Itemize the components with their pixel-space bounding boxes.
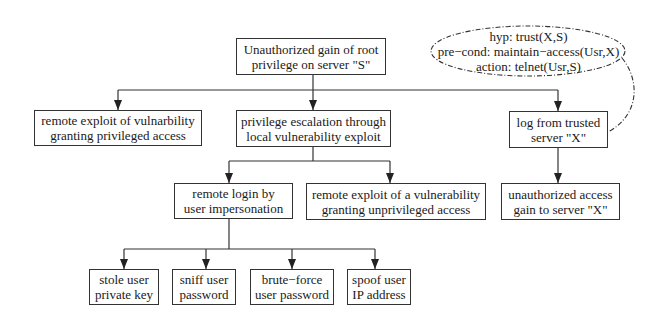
node-label: brute−force bbox=[262, 272, 323, 287]
node-label: unauthorized access bbox=[508, 187, 612, 202]
annotation-action: action: telnet(Usr,S) bbox=[476, 59, 581, 74]
arrow-icon bbox=[202, 259, 210, 269]
arrow-icon bbox=[554, 101, 562, 111]
node-brute-force: brute−force user password bbox=[250, 269, 334, 305]
node-label: privilege escalation through bbox=[241, 114, 386, 129]
arrow-icon bbox=[120, 259, 128, 269]
node-label: remote exploit of a vulnerability bbox=[312, 187, 480, 202]
annotation-precondition-text: pre−cond: maintain−access(Usr,X) bbox=[438, 44, 620, 59]
node-remote-exploit-unprivileged: remote exploit of a vulnerability granti… bbox=[306, 183, 486, 220]
node-label: granting privileged access bbox=[50, 128, 186, 143]
arrow-icon bbox=[309, 100, 317, 110]
arrow-icon bbox=[371, 259, 379, 269]
node-remote-login: remote login by user impersonation bbox=[174, 183, 293, 219]
node-label: password bbox=[179, 287, 228, 302]
arrow-icon bbox=[554, 173, 562, 183]
node-label: IP address bbox=[352, 287, 405, 302]
node-label: Unauthorized gain of root bbox=[244, 42, 379, 57]
node-label: user impersonation bbox=[184, 201, 283, 216]
node-label: server "X" bbox=[531, 130, 586, 145]
node-label: stole user bbox=[99, 272, 148, 287]
node-label: sniff user bbox=[180, 272, 229, 287]
arrow-icon bbox=[386, 173, 394, 183]
node-spoof-ip: spoof user IP address bbox=[347, 269, 411, 305]
node-sniff-password: sniff user password bbox=[172, 269, 236, 305]
node-label: private key bbox=[95, 287, 153, 302]
annotation-hypothesis: hyp: trust(X,S) bbox=[490, 29, 568, 44]
node-label: granting unprivileged access bbox=[322, 202, 471, 217]
node-label: remote exploit of vulnarbility bbox=[41, 113, 194, 128]
node-label: gain to server "X" bbox=[513, 202, 607, 217]
node-label: spoof user bbox=[352, 272, 406, 287]
node-label: privilege on server "S" bbox=[252, 57, 371, 72]
node-label: log from trusted bbox=[517, 115, 601, 130]
node-label: user password bbox=[255, 287, 329, 302]
node-privilege-escalation: privilege escalation through local vulne… bbox=[236, 110, 391, 147]
node-remote-exploit-privileged: remote exploit of vulnarbility granting … bbox=[34, 110, 202, 146]
node-stole-key: stole user private key bbox=[89, 269, 159, 305]
arrow-icon bbox=[288, 259, 296, 269]
node-root-goal: Unauthorized gain of root privilege on s… bbox=[236, 38, 386, 75]
node-label: remote login by bbox=[192, 186, 274, 201]
annotation-precondition: hyp: trust(X,S) pre−cond: maintain−acces… bbox=[431, 26, 626, 76]
node-label: local vulnerability exploit bbox=[246, 129, 380, 144]
arrow-icon bbox=[114, 100, 122, 110]
node-unauthorized-access-x: unauthorized access gain to server "X" bbox=[501, 183, 620, 220]
arrow-icon bbox=[225, 173, 233, 183]
node-log-from-trusted: log from trusted server "X" bbox=[509, 111, 608, 148]
